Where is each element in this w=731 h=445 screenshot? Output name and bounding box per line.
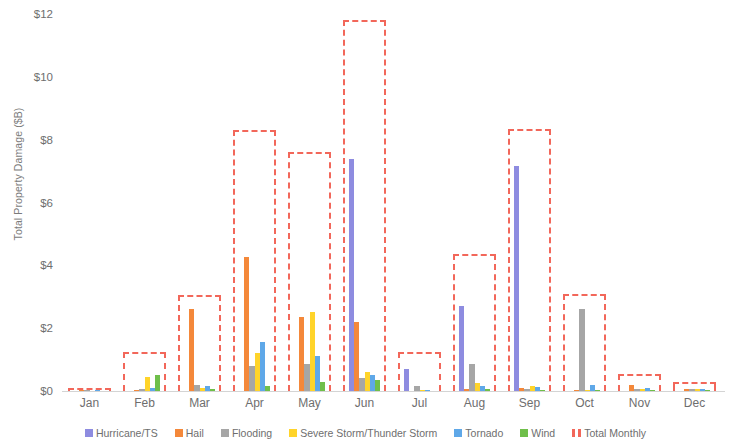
chart-legend: Hurricane/TSHailFloodingSevere Storm/Thu… xyxy=(0,427,731,439)
y-axis-tick: $6 xyxy=(3,197,53,209)
legend-item-label: Wind xyxy=(531,427,555,439)
bar xyxy=(320,382,325,391)
legend-item-label: Severe Storm/Thunder Storm xyxy=(300,427,437,439)
legend-item-label: Flooding xyxy=(232,427,272,439)
bar-cluster xyxy=(447,14,502,391)
bar-cluster xyxy=(612,14,667,391)
bar xyxy=(155,375,160,391)
y-axis-tick: $2 xyxy=(3,322,53,334)
bar xyxy=(95,390,100,391)
bar xyxy=(540,390,545,391)
legend-swatch-icon xyxy=(221,429,229,437)
month-group xyxy=(172,14,227,391)
y-axis-tick: $0 xyxy=(3,385,53,397)
month-group xyxy=(667,14,722,391)
x-axis-tick: Dec xyxy=(667,396,722,410)
bar xyxy=(425,390,430,391)
month-group xyxy=(612,14,667,391)
legend-swatch-icon xyxy=(289,429,297,437)
month-group xyxy=(62,14,117,391)
month-group xyxy=(117,14,172,391)
legend-item[interactable]: Flooding xyxy=(221,427,272,439)
bar xyxy=(189,309,194,391)
y-axis-tick: $4 xyxy=(3,259,53,271)
bar xyxy=(705,390,710,391)
x-axis-tick: Oct xyxy=(557,396,612,410)
bar-cluster xyxy=(557,14,612,391)
legend-item-label: Hurricane/TS xyxy=(96,427,158,439)
x-axis-tick: Apr xyxy=(227,396,282,410)
x-axis-tick: Jul xyxy=(392,396,447,410)
bar-cluster xyxy=(392,14,447,391)
month-group xyxy=(447,14,502,391)
legend-item-label: Hail xyxy=(186,427,204,439)
legend-item[interactable]: Tornado xyxy=(454,427,503,439)
bar-cluster xyxy=(282,14,337,391)
x-axis-tick: May xyxy=(282,396,337,410)
bar xyxy=(210,389,215,391)
y-axis-tick-labels: $12$10$8$6$4$2$0 xyxy=(0,0,62,405)
legend-swatch-icon xyxy=(175,429,183,437)
bar xyxy=(404,369,409,391)
x-axis-line xyxy=(62,391,725,392)
bar xyxy=(595,390,600,391)
bar xyxy=(579,309,584,391)
bar xyxy=(459,306,464,391)
month-group xyxy=(557,14,612,391)
bar-cluster xyxy=(172,14,227,391)
property-damage-bar-chart: Total Property Damage ($B) $12$10$8$6$4$… xyxy=(0,0,731,445)
x-axis-tick-labels: JanFebMarAprMayJunJulAugSepOctNovDec xyxy=(62,396,722,410)
legend-swatch-icon xyxy=(572,429,581,437)
bar xyxy=(514,166,519,391)
legend-item-label: Tornado xyxy=(465,427,503,439)
bar-cluster xyxy=(117,14,172,391)
bar xyxy=(485,389,490,391)
legend-item[interactable]: Hail xyxy=(175,427,204,439)
legend-item[interactable]: Wind xyxy=(520,427,555,439)
bar xyxy=(650,390,655,391)
y-axis-tick: $12 xyxy=(3,8,53,20)
bar xyxy=(260,342,265,391)
x-axis-tick: Sep xyxy=(502,396,557,410)
month-group xyxy=(392,14,447,391)
x-axis-tick: Jan xyxy=(62,396,117,410)
legend-item[interactable]: Hurricane/TS xyxy=(85,427,158,439)
legend-swatch-icon xyxy=(520,429,528,437)
x-axis-tick: Jun xyxy=(337,396,392,410)
x-axis-tick: Feb xyxy=(117,396,172,410)
legend-swatch-icon xyxy=(85,429,93,437)
legend-item-label: Total Monthly xyxy=(584,427,646,439)
bar xyxy=(265,386,270,391)
month-group xyxy=(502,14,557,391)
month-group xyxy=(282,14,337,391)
bar-cluster xyxy=(337,14,392,391)
bar-cluster xyxy=(667,14,722,391)
plot-area xyxy=(62,14,722,391)
bar-cluster xyxy=(227,14,282,391)
legend-item[interactable]: Severe Storm/Thunder Storm xyxy=(289,427,437,439)
bar xyxy=(84,390,89,391)
x-axis-tick: Aug xyxy=(447,396,502,410)
y-axis-tick: $10 xyxy=(3,71,53,83)
legend-item[interactable]: Total Monthly xyxy=(572,427,646,439)
bar xyxy=(375,380,380,391)
x-axis-tick: Mar xyxy=(172,396,227,410)
month-group xyxy=(227,14,282,391)
month-group xyxy=(337,14,392,391)
bar-cluster xyxy=(62,14,117,391)
legend-swatch-icon xyxy=(454,429,462,437)
y-axis-tick: $8 xyxy=(3,134,53,146)
bar-cluster xyxy=(502,14,557,391)
x-axis-tick: Nov xyxy=(612,396,667,410)
